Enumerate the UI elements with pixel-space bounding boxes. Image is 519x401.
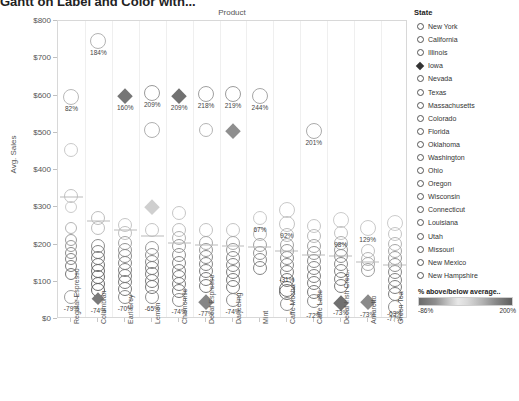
state-legend: State New YorkCaliforniaIllinoisIowaNeva… <box>414 8 519 282</box>
data-point-circle[interactable] <box>306 123 322 139</box>
color-legend: % above/below average.. -86% 200% <box>418 288 516 314</box>
circle-icon <box>414 154 426 161</box>
legend-item-label: Louisiana <box>426 219 458 226</box>
data-point-circle[interactable] <box>198 86 214 102</box>
legend-item-wisconsin[interactable]: Wisconsin <box>414 190 519 203</box>
color-legend-min: -86% <box>418 307 433 314</box>
legend-item-missouri[interactable]: Missouri <box>414 243 519 256</box>
legend-item-label: Washington <box>426 154 465 161</box>
legend-item-texas[interactable]: Texas <box>414 85 519 98</box>
page-title: Gantt on Label and Color with... <box>0 0 300 6</box>
circle-icon <box>414 102 426 109</box>
legend-item-label: Connecticut <box>426 206 465 213</box>
legend-item-washington[interactable]: Washington <box>414 151 519 164</box>
column-separator <box>273 21 274 317</box>
data-point-circle[interactable] <box>252 88 268 104</box>
circle-icon-glyph <box>417 115 424 122</box>
legend-item-label: Florida <box>426 128 449 135</box>
data-point-circle[interactable] <box>90 33 106 49</box>
data-point-circle[interactable] <box>144 122 160 138</box>
legend-item-california[interactable]: California <box>414 33 519 46</box>
column-separator <box>193 21 194 317</box>
legend-item-label: Colorado <box>426 115 456 122</box>
x-axis-tick-mark <box>124 318 125 322</box>
legend-item-louisiana[interactable]: Louisiana <box>414 216 519 229</box>
data-point-circle[interactable] <box>253 211 267 225</box>
legend-item-ohio[interactable]: Ohio <box>414 164 519 177</box>
x-axis-tick-label: Green Tea <box>397 291 404 324</box>
y-axis-tick-label: $800 <box>5 16 51 25</box>
legend-item-florida[interactable]: Florida <box>414 125 519 138</box>
data-point-label: 98% <box>334 241 347 248</box>
data-point-diamond[interactable] <box>172 88 187 103</box>
legend-item-label: New York <box>426 23 458 30</box>
legend-item-label: Nevada <box>426 75 452 82</box>
legend-item-connecticut[interactable]: Connecticut <box>414 203 519 216</box>
column-separator <box>381 21 382 317</box>
legend-item-oklahoma[interactable]: Oklahoma <box>414 138 519 151</box>
reference-line <box>275 250 298 251</box>
circle-icon <box>414 23 426 30</box>
color-gradient-bar <box>418 297 513 306</box>
data-point-circle[interactable] <box>65 222 77 234</box>
legend-item-label: Utah <box>426 233 443 240</box>
chart-page: Gantt on Label and Color with... Product… <box>0 0 519 401</box>
legend-item-label: Oklahoma <box>426 141 460 148</box>
data-point-circle[interactable] <box>360 220 376 236</box>
data-point-circle[interactable] <box>253 261 267 275</box>
x-axis-tick-label: Mint <box>262 311 269 324</box>
x-axis-tick-mark <box>97 318 98 322</box>
x-axis-tick-label: Decaf Espresso <box>208 275 215 324</box>
data-point-circle[interactable] <box>361 263 375 277</box>
data-point-label: 92% <box>280 232 293 239</box>
y-axis-tick-label: $700 <box>5 53 51 62</box>
circle-icon <box>414 49 426 56</box>
data-point-diamond[interactable] <box>225 123 240 138</box>
data-point-diamond[interactable] <box>118 88 133 103</box>
reference-line <box>329 256 352 257</box>
data-point-circle[interactable] <box>64 143 78 157</box>
data-point-circle[interactable] <box>199 123 213 137</box>
x-axis-tick-mark <box>313 318 314 322</box>
x-axis-tick-mark <box>178 318 179 322</box>
reference-line <box>222 245 245 246</box>
data-point-label: 184% <box>90 49 107 56</box>
x-axis-tick-label: Amaretto <box>370 296 377 324</box>
x-axis-tick-mark <box>259 318 260 322</box>
x-axis-tick-mark <box>205 318 206 322</box>
data-point-circle[interactable] <box>91 221 105 235</box>
data-point-label: 82% <box>65 105 78 112</box>
circle-icon-glyph <box>417 180 424 187</box>
legend-item-label: Texas <box>426 89 446 96</box>
legend-title: State <box>414 8 519 17</box>
data-point-diamond[interactable] <box>145 200 160 215</box>
data-point-circle[interactable] <box>225 86 241 102</box>
column-separator <box>300 21 301 317</box>
legend-item-utah[interactable]: Utah <box>414 230 519 243</box>
legend-item-colorado[interactable]: Colorado <box>414 112 519 125</box>
data-point-circle[interactable] <box>199 223 213 237</box>
x-axis-tick-mark <box>70 318 71 322</box>
data-point-circle[interactable] <box>63 89 79 105</box>
plot-area: 184%82%160%209%209%218%219%244%201%67%92… <box>57 20 407 318</box>
x-axis-tick-mark <box>232 318 233 322</box>
legend-item-new-hampshire[interactable]: New Hampshire <box>414 269 519 282</box>
circle-icon-glyph <box>417 36 424 43</box>
data-point-circle[interactable] <box>145 290 159 304</box>
legend-item-illinois[interactable]: Illinois <box>414 46 519 59</box>
circle-icon-glyph <box>417 102 424 109</box>
circle-icon <box>414 272 426 279</box>
legend-item-new-york[interactable]: New York <box>414 20 519 33</box>
legend-item-label: Illinois <box>426 49 447 56</box>
legend-item-iowa[interactable]: Iowa <box>414 59 519 72</box>
circle-icon <box>414 141 426 148</box>
legend-item-nevada[interactable]: Nevada <box>414 72 519 85</box>
data-point-circle[interactable] <box>65 201 77 213</box>
legend-item-new-mexico[interactable]: New Mexico <box>414 256 519 269</box>
legend-item-oregon[interactable]: Oregon <box>414 177 519 190</box>
data-point-circle[interactable] <box>144 85 160 101</box>
column-separator <box>139 21 140 317</box>
legend-item-massachusetts[interactable]: Massachusetts <box>414 99 519 112</box>
circle-icon-glyph <box>417 154 424 161</box>
data-point-circle[interactable] <box>172 206 186 220</box>
